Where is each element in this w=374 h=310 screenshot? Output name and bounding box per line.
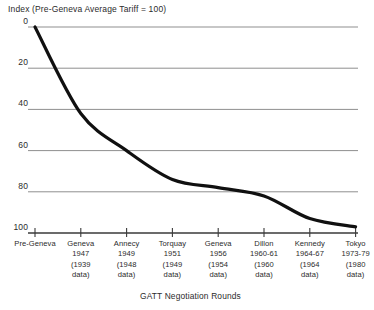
x-axis-tick-label: Annecy1949(1948data): [101, 239, 153, 281]
x-axis-tick-label-line: 1956: [192, 249, 244, 259]
x-axis-tick-label-line: (1960: [238, 260, 290, 270]
x-axis-tick-label: Torquay1951(1949data): [146, 239, 198, 281]
x-axis-tick-label-line: data): [146, 270, 198, 280]
x-axis-tick-label-line: data): [101, 270, 153, 280]
x-axis-tick-label: Geneva1956(1954data): [192, 239, 244, 281]
tariff-index-line: [35, 27, 356, 227]
x-axis-tick-label-line: 1951: [146, 249, 198, 259]
x-axis-tick-label-line: (1980: [330, 260, 374, 270]
x-axis-tick-label-line: data): [330, 270, 374, 280]
x-axis-tick-label-line: Kennedy: [284, 239, 336, 249]
gridlines: [28, 27, 358, 233]
x-axis-tick-label-line: Tokyo: [330, 239, 374, 249]
x-axis-tick-label-line: (1954: [192, 260, 244, 270]
x-axis-tick-label: Geneva1947(1939data): [55, 239, 107, 281]
x-axis-tick-label-line: (1949: [146, 260, 198, 270]
x-axis-tick-label-line: (1939: [55, 260, 107, 270]
x-axis-tick-labels: Pre-GenevaGeneva1947(1939data)Annecy1949…: [0, 239, 366, 297]
x-axis-tick-label-line: Geneva: [192, 239, 244, 249]
x-axis-tick-label-line: Dillon: [238, 239, 290, 249]
x-axis-tick-label-line: (1948: [101, 260, 153, 270]
x-axis-tick-label-line: 1960-61: [238, 249, 290, 259]
x-axis-tick-label-line: Annecy: [101, 239, 153, 249]
x-axis-tick-label: Tokyo1973-79(1980data): [330, 239, 374, 281]
x-axis-tick-label-line: Geneva: [55, 239, 107, 249]
x-axis-tick-label: Dillon1960-61(1960data): [238, 239, 290, 281]
x-axis-tick-label-line: Torquay: [146, 239, 198, 249]
x-axis-tick-label-line: data): [192, 270, 244, 280]
x-axis-tick-label-line: 1949: [101, 249, 153, 259]
x-axis-tick-label-line: data): [284, 270, 336, 280]
x-axis-title: GATT Negotiation Rounds: [140, 291, 241, 301]
x-axis-tick-label-line: data): [55, 270, 107, 280]
x-axis-tick-label: Pre-Geneva: [9, 239, 61, 249]
x-axis-tick-label-line: Pre-Geneva: [9, 239, 61, 249]
x-axis-tick-label-line: 1973-79: [330, 249, 374, 259]
x-axis-tick-label-line: (1964: [284, 260, 336, 270]
x-axis-tick-label-line: 1947: [55, 249, 107, 259]
x-axis-tick-label: Kennedy1964-67(1964data): [284, 239, 336, 281]
x-axis-tick-label-line: data): [238, 270, 290, 280]
x-axis-tick-label-line: 1964-67: [284, 249, 336, 259]
